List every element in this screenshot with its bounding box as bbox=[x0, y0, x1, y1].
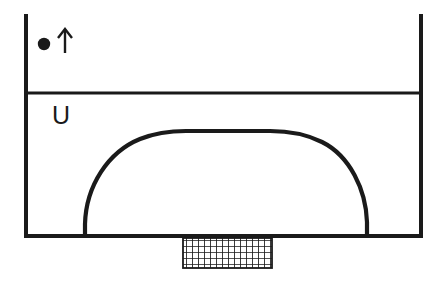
up-arrow-icon bbox=[58, 29, 72, 53]
region-label-u: U bbox=[52, 103, 71, 128]
dome-curve bbox=[85, 131, 367, 236]
particle-dot-icon bbox=[38, 38, 50, 50]
physics-diagram: U bbox=[0, 0, 448, 287]
hatched-support-block bbox=[183, 238, 272, 268]
support-hatch-fill bbox=[183, 238, 272, 268]
diagram-canvas bbox=[0, 0, 448, 287]
